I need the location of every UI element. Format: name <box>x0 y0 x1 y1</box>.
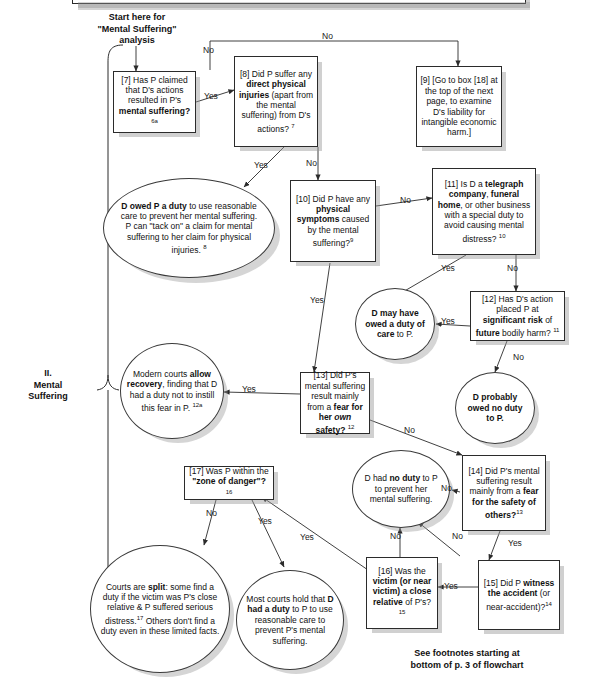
start-here-label: Start here for"Mental Suffering"analysis <box>78 12 196 47</box>
edge-label-10-13: Yes <box>310 295 324 305</box>
edge-label-7-9-vert: No <box>203 45 214 55</box>
edge-label-14-noduty: No <box>441 483 452 493</box>
node-no-duty[interactable]: D had no duty to P to prevent her mental… <box>352 450 450 528</box>
edge-label-16-17: Yes <box>300 532 314 542</box>
edge-label-12-prob: No <box>513 352 524 362</box>
node-7[interactable]: [7] Has P claimed that D's actions resul… <box>113 71 196 133</box>
node-12[interactable]: [12] Has D's action placed P at signific… <box>470 291 565 341</box>
edge-label-10-11: No <box>400 195 411 205</box>
edge-label-8-10: No <box>306 158 317 168</box>
edge-label-11-12: No <box>507 263 518 273</box>
node-may-have-owed-duty[interactable]: D may have owed a duty of care to P. <box>355 288 435 360</box>
edge-label-12-may: Yes <box>441 316 455 326</box>
edge-label-15-16: Yes <box>444 581 458 591</box>
edge-label-7-8: Yes <box>204 91 218 101</box>
node-14[interactable]: [14] Did P's mental suffering result mai… <box>462 455 546 531</box>
edge-label-11-may: Yes <box>441 263 455 273</box>
edge-label-15-noduty: No <box>452 531 463 541</box>
edge-label-17-most: Yes <box>258 516 272 526</box>
edge-label-8-duty: Yes <box>254 160 268 170</box>
edge-label-7-9-top: No <box>322 31 333 41</box>
node-probably-no-duty[interactable]: D probably owed no duty to P. <box>455 372 535 444</box>
previous-page-box-shadow <box>78 2 530 10</box>
footnote-note: See footnotes starting atbottom of p. 3 … <box>372 648 562 671</box>
edge-label-14-15: Yes <box>508 538 522 548</box>
node-11[interactable]: [11] Is D a telegraph company, funeral h… <box>432 168 536 255</box>
node-most-courts-hold[interactable]: Most courts hold that D had a duty to P … <box>236 570 344 670</box>
node-13[interactable]: [13] Did P's mental suffering result mai… <box>300 372 370 434</box>
node-16[interactable]: [16] Was the victim (or near victim) a c… <box>366 557 438 629</box>
edge-label-17-split: No <box>206 508 217 518</box>
node-duty-tack-on[interactable]: D owed P a duty to use reasonable care t… <box>103 178 275 278</box>
node-9[interactable]: [9] [Go to box [18] at the top of the ne… <box>416 66 502 147</box>
edge-label-13-modern: Yes <box>242 384 256 394</box>
edge-label-13-14: No <box>404 425 415 435</box>
edge-label-16-noduty: No <box>390 531 401 541</box>
section-label: II.MentalSuffering <box>8 368 88 403</box>
node-15[interactable]: [15] Did P witness the accident (or near… <box>478 560 560 630</box>
node-10[interactable]: [10] Did P have any physical symptoms ca… <box>290 180 376 262</box>
node-modern-courts-allow-recovery[interactable]: Modern courts allow recovery, finding th… <box>120 343 224 439</box>
node-8[interactable]: [8] Did P suffer any direct physical inj… <box>234 56 318 147</box>
flowchart-canvas: Start here for"Mental Suffering"analysis… <box>0 0 605 700</box>
node-courts-split[interactable]: Courts are split: some find a duty if th… <box>90 545 230 673</box>
node-17[interactable]: [17] Was P within the "zone of danger"? … <box>184 466 274 500</box>
